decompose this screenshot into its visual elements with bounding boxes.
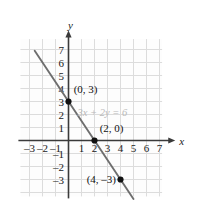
x-tick-label: 1 <box>79 142 85 154</box>
y-axis-label: y <box>67 19 73 31</box>
point-coordinate-label: (2, 0) <box>100 122 124 135</box>
y-tick-label: 7 <box>59 44 65 56</box>
coordinate-graph-figure: –3–2–11234567–3–2–11234567 (0, 3)(2, 0)(… <box>0 0 207 217</box>
x-tick-label: 5 <box>131 142 137 154</box>
plotted-point <box>65 98 71 104</box>
plotted-point <box>91 137 97 143</box>
plotted-point <box>117 176 123 182</box>
y-tick-label: –2 <box>52 161 64 173</box>
x-tick-label: 7 <box>157 142 163 154</box>
x-tick-label: –2 <box>36 142 48 154</box>
graph-canvas: –3–2–11234567–3–2–11234567 (0, 3)(2, 0)(… <box>0 0 207 217</box>
y-tick-label: 5 <box>59 70 65 82</box>
equation-label: 3x + 2y = 6 <box>76 107 127 118</box>
y-tick-label: 3 <box>59 96 65 108</box>
y-tick-label: –1 <box>52 148 64 160</box>
y-tick-label: 6 <box>59 57 65 69</box>
x-tick-label: 6 <box>144 142 150 154</box>
x-tick-label: –3 <box>23 142 36 154</box>
y-tick-label: 2 <box>59 109 65 121</box>
y-tick-label: –3 <box>52 174 65 186</box>
point-coordinate-label: (4, –3) <box>87 173 117 186</box>
x-axis-label: x <box>178 135 184 147</box>
x-tick-label: 4 <box>118 142 124 154</box>
point-coordinate-label: (0, 3) <box>74 83 98 96</box>
x-tick-label: 3 <box>105 142 111 154</box>
y-tick-label: 1 <box>59 122 65 134</box>
equation-annotation: 3x + 2y = 6 <box>76 107 127 118</box>
